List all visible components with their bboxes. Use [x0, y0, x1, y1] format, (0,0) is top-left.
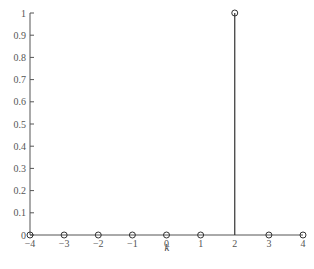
y-tick-label: 0.4	[14, 141, 27, 152]
y-tick-label: 0.2	[14, 185, 27, 196]
y-axis: 00.10.20.30.40.50.60.70.80.91	[14, 8, 35, 241]
stems	[27, 10, 306, 238]
x-tick-label: 3	[266, 238, 271, 249]
y-tick-label: 0.6	[14, 96, 27, 107]
x-tick-label: 4	[301, 238, 306, 249]
y-tick-label: 0.9	[14, 30, 27, 41]
y-tick-label: 0.3	[14, 163, 27, 174]
x-tick-label: −1	[127, 238, 138, 249]
y-tick-label: 0.7	[14, 74, 27, 85]
x-axis-label: k	[165, 241, 171, 253]
x-tick-label: −3	[59, 238, 70, 249]
y-tick-label: 0.1	[14, 207, 27, 218]
y-tick-label: 1	[21, 8, 26, 19]
stem-plot: 00.10.20.30.40.50.60.70.80.91 −4−3−2−101…	[0, 0, 314, 269]
x-tick-label: −2	[93, 238, 104, 249]
y-tick-label: 0.8	[14, 52, 27, 63]
x-tick-label: 1	[198, 238, 203, 249]
y-tick-label: 0.5	[14, 119, 27, 130]
x-tick-label: −4	[25, 238, 36, 249]
x-tick-label: 2	[232, 238, 237, 249]
